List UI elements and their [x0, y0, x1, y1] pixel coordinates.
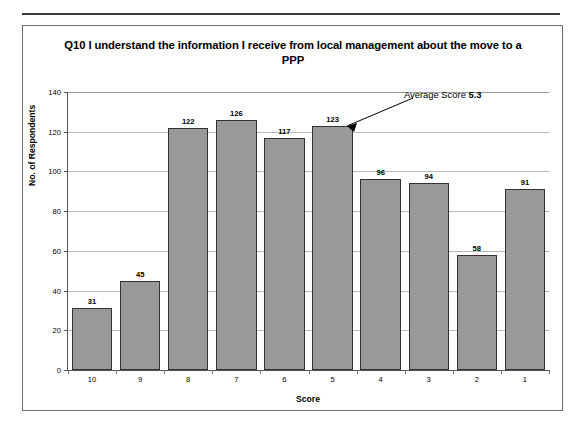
x-axis-tick — [405, 370, 406, 374]
y-axis-tick-label: 0 — [57, 366, 61, 375]
y-axis-tick-label: 140 — [48, 88, 61, 97]
average-score-label: Average Score — [404, 89, 466, 100]
x-axis-tick — [116, 370, 117, 374]
bar[interactable] — [312, 126, 352, 370]
y-axis-tick-label: 40 — [53, 286, 61, 295]
x-axis-tick — [164, 370, 165, 374]
x-axis-tick — [260, 370, 261, 374]
chart-title: Q10 I understand the information I recei… — [63, 38, 523, 68]
bar-value-label: 91 — [501, 178, 549, 187]
bar[interactable] — [264, 138, 304, 370]
bar-group: 964 — [357, 92, 405, 370]
bar[interactable] — [168, 128, 208, 370]
y-axis-title: No. of Respondents — [27, 105, 37, 186]
bar-group: 3110 — [68, 92, 116, 370]
bar-value-label: 58 — [453, 244, 501, 253]
x-axis-tick — [212, 370, 213, 374]
bar-value-label: 45 — [116, 270, 164, 279]
x-axis-tick-label: 8 — [164, 375, 212, 384]
bar-group: 911 — [501, 92, 549, 370]
bar[interactable] — [409, 183, 449, 370]
bar-value-label: 123 — [309, 115, 357, 124]
x-axis-tick-label: 5 — [309, 375, 357, 384]
bar[interactable] — [360, 179, 400, 370]
x-axis-tick-label: 2 — [453, 375, 501, 384]
bar-value-label: 94 — [405, 172, 453, 181]
bar-group: 1267 — [212, 92, 260, 370]
x-axis-tick — [501, 370, 502, 374]
bar-group: 1235 — [309, 92, 357, 370]
bar[interactable] — [505, 189, 545, 370]
y-axis-tick-label: 80 — [53, 207, 61, 216]
x-axis-tick — [309, 370, 310, 374]
bar-group: 1228 — [164, 92, 212, 370]
x-axis-tick-label: 7 — [212, 375, 260, 384]
x-axis-tick-label: 9 — [116, 375, 164, 384]
x-axis-tick — [549, 370, 550, 374]
x-axis-title: Score — [67, 394, 549, 404]
x-axis-tick-label: 4 — [357, 375, 405, 384]
x-axis-tick — [357, 370, 358, 374]
bar[interactable] — [120, 281, 160, 370]
y-axis-tick-label: 60 — [53, 246, 61, 255]
bar-value-label: 96 — [357, 168, 405, 177]
average-score-value: 5.3 — [468, 89, 481, 100]
bar[interactable] — [457, 255, 497, 370]
bar[interactable] — [72, 308, 112, 370]
bar-group: 943 — [405, 92, 453, 370]
bar-value-label: 126 — [212, 109, 260, 118]
x-axis-tick-label: 3 — [405, 375, 453, 384]
bar-value-label: 122 — [164, 117, 212, 126]
header-divider — [22, 13, 560, 15]
bar[interactable] — [216, 120, 256, 370]
plot-area: 0204060801001201403110459122812671176123… — [67, 92, 549, 371]
bar-group: 582 — [453, 92, 501, 370]
bar-group: 459 — [116, 92, 164, 370]
average-score-annotation: Average Score 5.3 — [404, 89, 482, 100]
y-axis-tick-label: 100 — [48, 167, 61, 176]
bar-group: 1176 — [260, 92, 308, 370]
bar-value-label: 117 — [260, 127, 308, 136]
bar-value-label: 31 — [68, 297, 116, 306]
x-axis-tick — [68, 370, 69, 374]
y-axis-tick-label: 20 — [53, 326, 61, 335]
x-axis-tick-label: 10 — [68, 375, 116, 384]
x-axis-tick-label: 1 — [501, 375, 549, 384]
y-axis-tick-label: 120 — [48, 127, 61, 136]
x-axis-tick-label: 6 — [260, 375, 308, 384]
x-axis-tick — [453, 370, 454, 374]
chart-container: Q10 I understand the information I recei… — [22, 25, 563, 411]
